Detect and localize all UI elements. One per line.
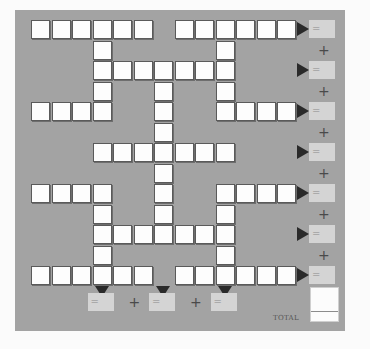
row-sum-box[interactable]: = — [309, 225, 335, 243]
grid-cell[interactable] — [236, 266, 255, 285]
grid-cell[interactable] — [134, 143, 153, 162]
grid-cell[interactable] — [52, 266, 71, 285]
grid-cell[interactable] — [195, 61, 214, 80]
grid-cell[interactable] — [31, 266, 50, 285]
grid-cell[interactable] — [134, 225, 153, 244]
grid-cell[interactable] — [216, 61, 235, 80]
arrow-right-icon — [297, 104, 309, 118]
plus-sign: + — [129, 295, 141, 309]
plus-sign: + — [318, 125, 330, 139]
arrow-right-icon — [297, 186, 309, 200]
grid-cell[interactable] — [216, 205, 235, 224]
grid-cell[interactable] — [216, 225, 235, 244]
grid-cell[interactable] — [154, 82, 173, 101]
grid-cell[interactable] — [195, 266, 214, 285]
grid-cell[interactable] — [154, 184, 173, 203]
grid-cell[interactable] — [72, 266, 91, 285]
grid-cell[interactable] — [175, 20, 194, 39]
row-sum-box[interactable]: = — [309, 266, 335, 284]
grid-cell[interactable] — [277, 184, 296, 203]
grid-cell[interactable] — [175, 225, 194, 244]
grid-cell[interactable] — [236, 20, 255, 39]
grid-cell[interactable] — [216, 246, 235, 265]
grid-cell[interactable] — [257, 20, 276, 39]
grid-cell[interactable] — [93, 102, 112, 121]
grid-cell[interactable] — [93, 225, 112, 244]
grid-cell[interactable] — [216, 184, 235, 203]
grid-cell[interactable] — [236, 102, 255, 121]
grid-cell[interactable] — [154, 61, 173, 80]
grid-cell[interactable] — [216, 102, 235, 121]
grid-cell[interactable] — [154, 143, 173, 162]
grid-cell[interactable] — [93, 184, 112, 203]
grid-cell[interactable] — [175, 143, 194, 162]
grid-cell[interactable] — [257, 266, 276, 285]
grid-cell[interactable] — [52, 102, 71, 121]
grid-cell[interactable] — [277, 20, 296, 39]
grid-cell[interactable] — [31, 184, 50, 203]
grid-cell[interactable] — [93, 20, 112, 39]
arrow-right-icon — [297, 145, 309, 159]
plus-sign: + — [318, 166, 330, 180]
row-sum-box[interactable]: = — [309, 20, 335, 38]
grid-cell[interactable] — [257, 102, 276, 121]
grid-cell[interactable] — [257, 184, 276, 203]
grid-cell[interactable] — [93, 41, 112, 60]
grid-cell[interactable] — [154, 225, 173, 244]
total-divider — [311, 311, 338, 312]
grid-cell[interactable] — [113, 143, 132, 162]
grid-cell[interactable] — [72, 102, 91, 121]
grid-cell[interactable] — [134, 61, 153, 80]
grid-cell[interactable] — [154, 102, 173, 121]
grid-cell[interactable] — [236, 184, 255, 203]
arrow-right-icon — [297, 22, 309, 36]
grid-cell[interactable] — [216, 82, 235, 101]
grid-cell[interactable] — [134, 20, 153, 39]
grid-cell[interactable] — [113, 225, 132, 244]
plus-sign: + — [318, 84, 330, 98]
plus-sign: + — [318, 248, 330, 262]
plus-sign: + — [190, 295, 202, 309]
grid-cell[interactable] — [216, 20, 235, 39]
total-answer-box[interactable] — [310, 287, 339, 322]
arrow-right-icon — [297, 268, 309, 282]
grid-cell[interactable] — [216, 143, 235, 162]
grid-cell[interactable] — [93, 61, 112, 80]
grid-cell[interactable] — [113, 20, 132, 39]
grid-cell[interactable] — [216, 41, 235, 60]
grid-cell[interactable] — [31, 102, 50, 121]
plus-sign: + — [318, 207, 330, 221]
grid-cell[interactable] — [154, 164, 173, 183]
grid-cell[interactable] — [195, 225, 214, 244]
grid-cell[interactable] — [277, 102, 296, 121]
grid-cell[interactable] — [277, 266, 296, 285]
plus-sign: + — [318, 43, 330, 57]
grid-cell[interactable] — [175, 61, 194, 80]
grid-cell[interactable] — [72, 20, 91, 39]
grid-cell[interactable] — [216, 266, 235, 285]
grid-cell[interactable] — [52, 184, 71, 203]
grid-cell[interactable] — [113, 61, 132, 80]
column-sum-box[interactable]: = — [149, 293, 175, 311]
row-sum-box[interactable]: = — [309, 184, 335, 202]
grid-cell[interactable] — [93, 205, 112, 224]
grid-cell[interactable] — [195, 20, 214, 39]
grid-cell[interactable] — [154, 205, 173, 224]
grid-cell[interactable] — [195, 143, 214, 162]
grid-cell[interactable] — [93, 246, 112, 265]
grid-cell[interactable] — [175, 266, 194, 285]
grid-cell[interactable] — [93, 82, 112, 101]
grid-cell[interactable] — [93, 143, 112, 162]
grid-cell[interactable] — [154, 123, 173, 142]
column-sum-box[interactable]: = — [88, 293, 114, 311]
column-sum-box[interactable]: = — [211, 293, 237, 311]
row-sum-box[interactable]: = — [309, 61, 335, 79]
grid-cell[interactable] — [113, 266, 132, 285]
row-sum-box[interactable]: = — [309, 102, 335, 120]
grid-cell[interactable] — [93, 266, 112, 285]
grid-cell[interactable] — [31, 20, 50, 39]
grid-cell[interactable] — [134, 266, 153, 285]
grid-cell[interactable] — [72, 184, 91, 203]
row-sum-box[interactable]: = — [309, 143, 335, 161]
grid-cell[interactable] — [52, 20, 71, 39]
